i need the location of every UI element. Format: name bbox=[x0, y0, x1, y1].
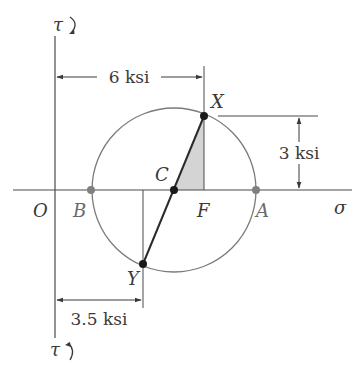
dim-3ksi-label: 3 ksi bbox=[279, 143, 320, 163]
point-a bbox=[252, 186, 260, 194]
label-a: A bbox=[254, 200, 269, 221]
label-c: C bbox=[155, 164, 169, 185]
label-tau-top: τ bbox=[53, 14, 64, 35]
point-b bbox=[87, 186, 95, 194]
mohr-circle-diagram: 6 ksi 3 ksi 3.5 ksi O B C F A σ X Y τ τ bbox=[0, 0, 353, 370]
label-f: F bbox=[196, 200, 211, 221]
counterclockwise-arrowhead-icon bbox=[65, 342, 71, 347]
label-tau-bottom: τ bbox=[50, 339, 61, 360]
dim-6ksi-label: 6 ksi bbox=[109, 67, 150, 87]
label-o: O bbox=[33, 200, 48, 221]
dim-3-5ksi-label: 3.5 ksi bbox=[71, 309, 128, 329]
label-sigma: σ bbox=[334, 197, 347, 218]
point-c bbox=[170, 186, 178, 194]
clockwise-arrowhead-icon bbox=[69, 29, 75, 34]
point-y bbox=[139, 260, 147, 268]
label-y: Y bbox=[127, 268, 141, 289]
clockwise-rotation-icon bbox=[70, 17, 75, 32]
label-x: X bbox=[209, 91, 225, 112]
label-b: B bbox=[72, 200, 86, 221]
point-x bbox=[200, 112, 208, 120]
